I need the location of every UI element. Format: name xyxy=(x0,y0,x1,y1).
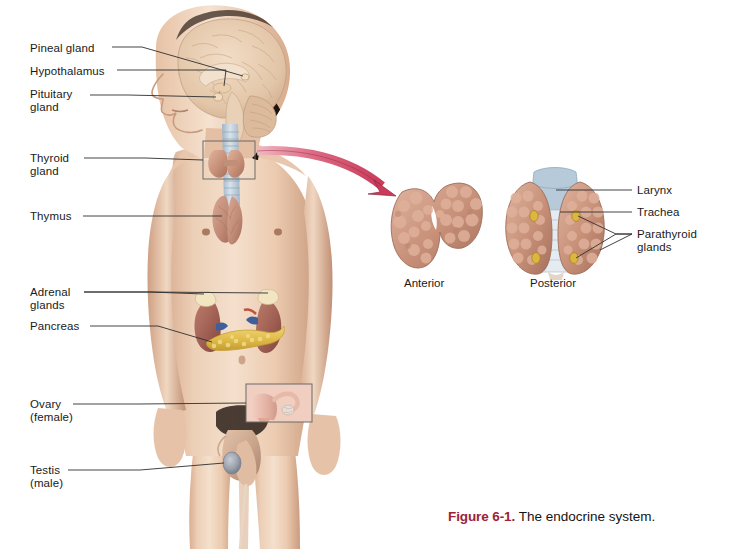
leader-parathyroid-c xyxy=(600,234,632,250)
label-testis-line1: Testis xyxy=(30,464,60,477)
figure-number: Figure 6-1. xyxy=(448,509,515,524)
human-body-illustration xyxy=(142,0,341,549)
label-parathyroid-glands-line2: glands xyxy=(637,241,672,254)
label-hypothalamus: Hypothalamus xyxy=(30,65,105,78)
figure-caption-body: The endocrine system. xyxy=(519,509,656,524)
label-thyroid-gland-line2: gland xyxy=(30,165,59,178)
right-nipple xyxy=(274,229,282,236)
label-parathyroid-glands-line1: Parathyroid xyxy=(637,228,697,241)
label-adrenal-glands-line1: Adrenal xyxy=(30,286,70,299)
label-trachea: Trachea xyxy=(637,206,679,219)
ovary-structure xyxy=(282,405,294,415)
thyroid-posterior-view xyxy=(506,168,605,281)
uterus xyxy=(250,394,277,421)
thyroid-isthmus-body xyxy=(224,160,238,166)
endocrine-system-figure: Pineal gland Hypothalamus Pituitary glan… xyxy=(0,0,741,549)
thyroid-anterior-view xyxy=(391,183,482,268)
hypothalamus-structure xyxy=(213,83,231,93)
figure-caption: Figure 6-1. The endocrine system. xyxy=(433,494,655,539)
right-adrenal-gland xyxy=(258,289,278,304)
ovary-inset-illustration xyxy=(246,384,312,424)
caption-posterior-view: Posterior xyxy=(530,277,576,289)
label-ovary-line1: Ovary xyxy=(30,398,61,411)
label-ovary-line2: (female) xyxy=(30,411,73,424)
illustration-canvas xyxy=(0,0,741,549)
caption-anterior-view: Anterior xyxy=(404,277,444,289)
parathyroid-lower-right xyxy=(570,253,578,264)
label-pituitary-gland-line1: Pituitary xyxy=(30,88,72,101)
label-pancreas: Pancreas xyxy=(30,320,79,333)
pineal-structure xyxy=(241,74,249,80)
label-adrenal-glands-line2: glands xyxy=(30,299,65,312)
label-larynx: Larynx xyxy=(637,184,672,197)
label-testis-line2: (male) xyxy=(30,477,63,490)
left-nipple xyxy=(202,229,210,236)
label-pineal-gland: Pineal gland xyxy=(30,42,95,55)
label-thymus: Thymus xyxy=(30,210,72,223)
right-hand xyxy=(308,414,341,475)
label-pituitary-gland-line2: gland xyxy=(30,101,59,114)
label-thyroid-gland-line1: Thyroid xyxy=(30,152,69,165)
navel xyxy=(239,356,246,365)
parathyroid-upper-left xyxy=(530,211,538,222)
parathyroid-lower-left xyxy=(532,253,540,264)
left-hand xyxy=(154,408,187,467)
